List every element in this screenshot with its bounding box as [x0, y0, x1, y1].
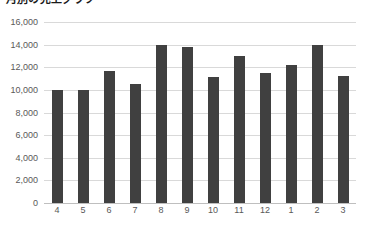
bar: [286, 65, 297, 203]
x-tick-label: 5: [80, 205, 85, 215]
y-axis-labels: 02,0004,0006,0008,00010,00012,00014,0001…: [0, 22, 38, 203]
y-tick-label: 0: [33, 198, 38, 208]
x-tick-label: 9: [184, 205, 189, 215]
x-tick-label: 2: [314, 205, 319, 215]
y-tick-label: 6,000: [15, 130, 38, 140]
bar: [260, 73, 271, 203]
bar: [312, 45, 323, 203]
bar: [156, 45, 167, 203]
bar-series: [44, 22, 356, 203]
y-tick-label: 2,000: [15, 175, 38, 185]
x-tick-label: 4: [54, 205, 59, 215]
chart-title: 月別の売上グラフ: [6, 0, 96, 6]
y-tick-label: 8,000: [15, 108, 38, 118]
y-tick-label: 16,000: [10, 17, 38, 27]
x-tick-label: 11: [234, 205, 243, 215]
y-tick-label: 14,000: [10, 40, 38, 50]
bar: [130, 84, 141, 203]
x-tick-label: 12: [260, 205, 270, 215]
bar-chart: 月別の売上グラフ 02,0004,0006,0008,00010,00012,0…: [0, 0, 366, 233]
bar: [208, 77, 219, 203]
bar: [182, 47, 193, 203]
x-tick-label: 1: [288, 205, 293, 215]
x-tick-label: 8: [158, 205, 163, 215]
x-tick-label: 3: [340, 205, 345, 215]
gridline-0: [44, 203, 356, 204]
bar: [52, 90, 63, 203]
y-tick-label: 4,000: [15, 153, 38, 163]
bar: [104, 71, 115, 203]
x-tick-label: 6: [106, 205, 111, 215]
y-tick-label: 12,000: [10, 62, 38, 72]
x-tick-label: 7: [132, 205, 137, 215]
y-tick-label: 10,000: [10, 85, 38, 95]
x-tick-label: 10: [208, 205, 218, 215]
bar: [78, 90, 89, 203]
plot-area: [44, 22, 356, 203]
bar: [338, 76, 349, 203]
x-axis-labels: 456789101112123: [44, 205, 356, 225]
bar: [234, 56, 245, 203]
